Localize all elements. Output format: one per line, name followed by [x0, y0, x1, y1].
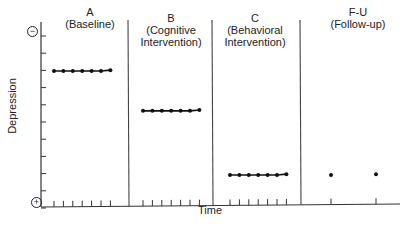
phase-c-name-2: Intervention)	[214, 36, 296, 48]
x-axis-label: Time	[198, 204, 222, 216]
phase-fu-id: F-U	[318, 6, 398, 18]
axis-ticks	[41, 36, 376, 208]
phase-a-name: (Baseline)	[55, 18, 125, 30]
phase-b-name-2: Intervention)	[130, 36, 212, 48]
minus-sign-icon: −	[27, 26, 38, 37]
plus-sign-icon: +	[31, 197, 42, 208]
phase-b-name-1: (Cognitive	[130, 24, 212, 36]
phase-label-c: C (Behavioral Intervention)	[214, 12, 296, 48]
phase-fu-name: (Follow-up)	[318, 18, 398, 30]
y-axis-label: Depression	[6, 76, 18, 136]
phase-label-b: B (Cognitive Intervention)	[130, 12, 212, 48]
phase-b-id: B	[130, 12, 212, 24]
phase-label-fu: F-U (Follow-up)	[318, 6, 398, 30]
phase-a-id: A	[55, 6, 125, 18]
phase-label-a: A (Baseline)	[55, 6, 125, 30]
axes	[41, 22, 400, 207]
data-series	[52, 68, 378, 177]
phase-c-id: C	[214, 12, 296, 24]
phase-c-name-1: (Behavioral	[214, 24, 296, 36]
